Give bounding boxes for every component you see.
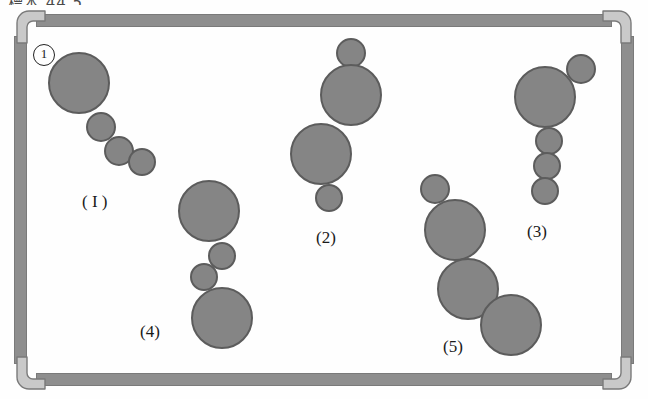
circle — [48, 52, 110, 114]
circle — [480, 294, 542, 356]
cluster-label: (5) — [443, 337, 463, 357]
circle — [190, 263, 218, 291]
circle — [533, 152, 561, 180]
circle — [290, 123, 352, 185]
figure-page: 標本 44 5 1 ( I )(2)(3)(4)(5) — [0, 0, 648, 399]
circle — [315, 184, 343, 212]
circle — [320, 64, 382, 126]
circle — [531, 177, 559, 205]
circle — [191, 287, 253, 349]
circle — [535, 127, 563, 155]
circle — [178, 180, 240, 242]
circle — [514, 66, 576, 128]
cluster-label: (2) — [316, 228, 336, 248]
cluster-label: (3) — [527, 222, 547, 242]
circle — [424, 199, 486, 261]
cluster-label: ( I ) — [82, 192, 107, 212]
circle — [128, 148, 156, 176]
cluster-label: (4) — [140, 322, 160, 342]
